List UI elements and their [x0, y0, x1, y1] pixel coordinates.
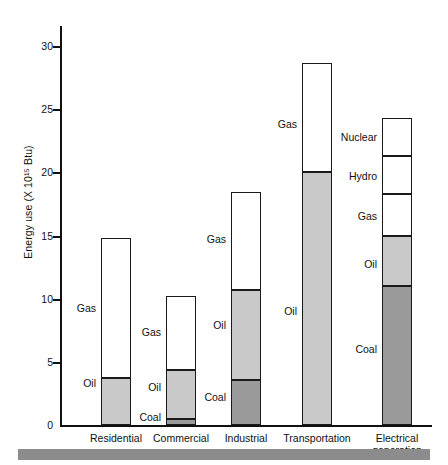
label-commercial-gas: Gas [106, 327, 161, 338]
segment-transportation-oil[interactable] [302, 172, 332, 425]
segment-industrial-oil[interactable] [231, 290, 261, 380]
label-electrical-oil: Oil [322, 259, 377, 270]
y-tick-label-5: 5 [31, 357, 53, 367]
y-tick-label-20: 20 [31, 167, 53, 177]
segment-transportation-gas[interactable] [302, 63, 332, 172]
y-tick-15 [53, 236, 62, 238]
y-tick-label-5-wrap: 5 [0, 357, 53, 367]
y-axis-line [60, 26, 62, 426]
label-electrical-gas: Gas [322, 211, 377, 222]
y-tick-30 [53, 46, 62, 48]
segment-industrial-gas[interactable] [231, 192, 261, 290]
segment-electrical-hydro[interactable] [382, 156, 412, 194]
label-commercial-oil: Oil [106, 382, 161, 393]
category-label-electrical-generation-line1: Electrical [357, 432, 437, 444]
label-transportation-gas: Gas [242, 119, 297, 130]
y-tick-label-25: 25 [31, 104, 53, 114]
segment-residential-gas[interactable] [101, 238, 131, 378]
y-tick-label-15: 15 [31, 231, 53, 241]
label-industrial-coal: Coal [171, 392, 226, 403]
label-electrical-coal: Coal [322, 344, 377, 355]
y-tick-25 [53, 109, 62, 111]
y-tick-label-0-wrap: 0 [0, 420, 53, 430]
label-residential-oil: Oil [41, 378, 96, 389]
bottom-decorative-rule [18, 449, 430, 460]
bar-transportation[interactable] [302, 63, 332, 425]
y-tick-20 [53, 172, 62, 174]
x-axis-line [60, 425, 432, 427]
y-tick-label-30: 30 [31, 41, 53, 51]
category-label-transportation: Transportation [272, 432, 362, 444]
segment-electrical-oil[interactable] [382, 236, 412, 286]
y-tick-10 [53, 299, 62, 301]
label-electrical-hydro: Hydro [322, 171, 377, 182]
segment-electrical-coal[interactable] [382, 286, 412, 425]
y-axis-label: Energy use (X 10¹⁵ Btu) [22, 112, 34, 292]
segment-electrical-gas[interactable] [382, 194, 412, 236]
stacked-bar-chart-figure: 30 25 20 15 10 5 0 Energy use (X 10¹⁵ Bt… [0, 0, 448, 465]
label-industrial-gas: Gas [171, 234, 226, 245]
label-transportation-oil: Oil [242, 306, 297, 317]
label-industrial-oil: Oil [171, 320, 226, 331]
y-tick-label-0: 0 [31, 420, 53, 430]
label-commercial-coal: Coal [106, 412, 161, 423]
segment-industrial-coal[interactable] [231, 380, 261, 425]
y-tick-label-30-wrap: 30 [0, 41, 53, 51]
label-residential-gas: Gas [41, 303, 96, 314]
y-tick-5 [53, 362, 62, 364]
label-electrical-nuclear: Nuclear [322, 132, 377, 143]
segment-commercial-coal[interactable] [166, 419, 196, 425]
segment-electrical-nuclear[interactable] [382, 118, 412, 156]
segment-commercial-gas[interactable] [166, 296, 196, 370]
bar-electrical-generation[interactable] [382, 118, 412, 425]
bar-commercial[interactable] [166, 296, 196, 425]
